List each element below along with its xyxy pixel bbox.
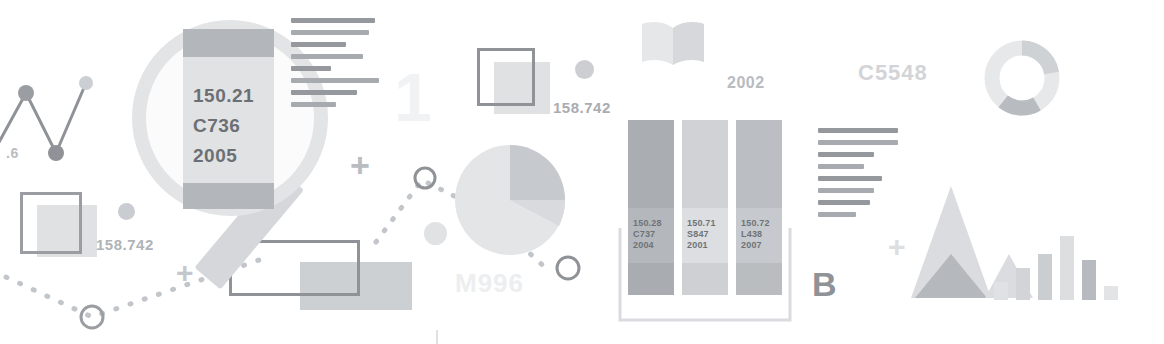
- dot-decor-3: [424, 222, 447, 245]
- ghost-digit-one: 1: [394, 58, 432, 136]
- plus-mark-1: +: [176, 258, 194, 288]
- text-line: [818, 140, 898, 145]
- text-line: [818, 128, 898, 133]
- ghost-label-c5548: C5548: [858, 60, 928, 86]
- dewey-label-mid: 158.742: [553, 99, 611, 116]
- spine-band-top: [682, 120, 728, 208]
- axis-tick-label: .6: [6, 145, 19, 161]
- spine-band-top: [736, 120, 782, 208]
- year-label-2002: 2002: [727, 74, 765, 92]
- text-line: [818, 200, 870, 205]
- magnified-cutter: C736: [193, 111, 274, 141]
- text-line: [818, 212, 856, 217]
- open-book-icon: [640, 18, 706, 70]
- book-band-bottom: [183, 183, 274, 209]
- text-line: [291, 66, 331, 71]
- square-outline-mid: [477, 48, 535, 106]
- bar: [1016, 268, 1030, 300]
- bottom-tick-mark: [436, 330, 438, 344]
- text-line: [291, 90, 357, 95]
- letter-b-label: B: [812, 265, 837, 304]
- ghost-label-m996: M996: [455, 268, 524, 299]
- donut-chart: [984, 40, 1060, 116]
- shelf-bracket: [616, 228, 796, 328]
- bar: [1038, 254, 1052, 300]
- text-line: [291, 30, 369, 35]
- text-line: [291, 54, 363, 59]
- infographic-canvas: .6 158.742 + 150.21 C736 2005 1 +: [0, 0, 1164, 344]
- text-line: [291, 18, 375, 23]
- bar: [1060, 236, 1074, 300]
- bookshelf: 150.28C7372004150.71S8472001150.72L43820…: [620, 120, 788, 305]
- text-line: [291, 42, 346, 47]
- bar: [994, 282, 1008, 300]
- book-band-top: [183, 29, 274, 57]
- bar-chart-right: [994, 228, 1124, 300]
- magnified-book: 150.21 C736 2005: [183, 29, 274, 209]
- text-line: [291, 78, 379, 83]
- bar: [1082, 260, 1096, 300]
- text-lines-top: [291, 18, 386, 114]
- spine-band-top: [628, 120, 674, 208]
- text-line: [818, 188, 874, 193]
- dot-decor-1: [118, 203, 135, 220]
- text-line: [818, 152, 874, 157]
- text-lines-right: [818, 128, 910, 224]
- text-line: [291, 102, 336, 107]
- dot-decor-2: [575, 60, 594, 79]
- pie-chart: [455, 145, 565, 255]
- bar: [1104, 286, 1118, 300]
- magnified-year: 2005: [193, 141, 274, 171]
- text-line: [818, 164, 864, 169]
- plus-mark-2: +: [350, 148, 370, 182]
- text-line: [818, 176, 882, 181]
- magnified-call-number: 150.21: [193, 81, 274, 111]
